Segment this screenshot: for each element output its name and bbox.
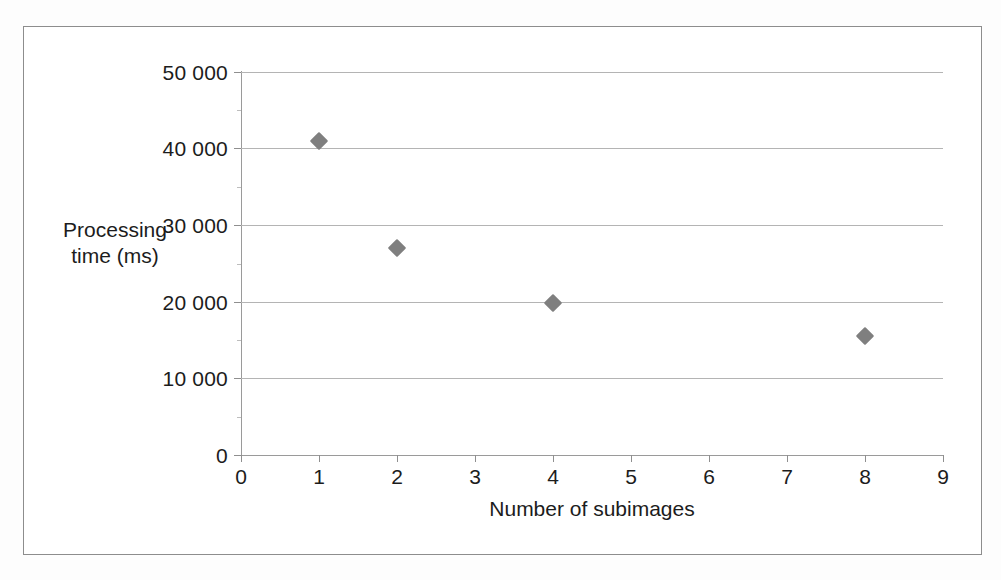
x-tick-9 [943, 455, 944, 462]
gridline-20000 [241, 302, 943, 303]
y-tick-30000 [234, 225, 241, 226]
y-tick-40000 [234, 148, 241, 149]
y-tick-0 [234, 455, 241, 456]
y-tick-20000 [234, 302, 241, 303]
x-tick-8 [865, 455, 866, 462]
y-tick-10000 [234, 378, 241, 379]
figure-page: Processing time (ms) Number of subimages… [0, 0, 1001, 580]
x-axis-title: Number of subimages [241, 497, 943, 521]
y-tick-label-10000: 10 000 [163, 368, 228, 389]
x-tick-5 [631, 455, 632, 462]
gridline-10000 [241, 378, 943, 379]
x-tick-label-9: 9 [937, 466, 949, 487]
x-tick-label-3: 3 [469, 466, 481, 487]
x-tick-label-1: 1 [313, 466, 325, 487]
x-tick-label-8: 8 [859, 466, 871, 487]
y-tick-label-0: 0 [216, 445, 228, 466]
x-tick-label-7: 7 [781, 466, 793, 487]
y-minor-tick-25000 [237, 264, 241, 265]
y-minor-tick-5000 [237, 417, 241, 418]
y-tick-50000 [234, 72, 241, 73]
plot-area: 50 000 40 000 30 000 20 000 10 000 0 0 1 [241, 72, 943, 455]
y-tick-label-50000: 50 000 [163, 62, 228, 83]
x-tick-label-5: 5 [625, 466, 637, 487]
gridline-30000 [241, 225, 943, 226]
x-tick-3 [475, 455, 476, 462]
x-tick-1 [319, 455, 320, 462]
x-tick-4 [553, 455, 554, 462]
y-minor-tick-45000 [237, 110, 241, 111]
x-tick-7 [787, 455, 788, 462]
y-axis-title-line-2: time (ms) [39, 243, 191, 269]
x-tick-6 [709, 455, 710, 462]
gridline-0-baseline [241, 455, 943, 456]
x-tick-label-4: 4 [547, 466, 559, 487]
data-point-marker[interactable] [856, 327, 874, 345]
x-tick-label-2: 2 [391, 466, 403, 487]
data-point-marker[interactable] [388, 239, 406, 257]
data-point-marker[interactable] [544, 294, 562, 312]
x-tick-2 [397, 455, 398, 462]
gridline-40000 [241, 148, 943, 149]
y-tick-label-30000: 30 000 [163, 215, 228, 236]
x-tick-label-6: 6 [703, 466, 715, 487]
x-tick-0 [241, 455, 242, 462]
gridline-50000 [241, 72, 943, 73]
figure-frame: Processing time (ms) Number of subimages… [23, 26, 982, 555]
y-tick-label-40000: 40 000 [163, 138, 228, 159]
y-minor-tick-15000 [237, 340, 241, 341]
y-minor-tick-35000 [237, 187, 241, 188]
x-tick-label-0: 0 [235, 466, 247, 487]
y-tick-label-20000: 20 000 [163, 292, 228, 313]
